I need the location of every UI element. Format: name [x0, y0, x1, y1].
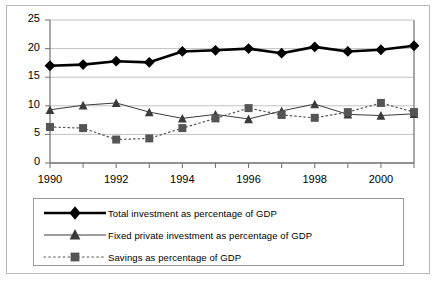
- data-point-marker: [410, 108, 418, 116]
- x-tick-label: 1996: [229, 173, 269, 185]
- x-tickmarks-group: [45, 20, 414, 168]
- data-point-marker: [145, 108, 154, 117]
- legend-key-total-investment: [42, 202, 108, 224]
- data-point-marker: [409, 40, 420, 51]
- legend-label-fixed-private-investment: Fixed private investment as percentage o…: [108, 230, 312, 241]
- x-tick-label: 1990: [30, 173, 70, 185]
- series-lines-group: [50, 46, 414, 140]
- data-point-marker: [144, 57, 155, 68]
- legend-label-savings: Savings as percentage of GDP: [108, 252, 241, 263]
- x-tick-label: 2000: [361, 173, 401, 185]
- data-point-marker: [111, 56, 122, 67]
- legend-key-fixed-private-investment: [42, 224, 108, 246]
- data-point-marker: [78, 59, 89, 70]
- series-markers-group: [45, 40, 420, 143]
- axes-group: [50, 20, 414, 163]
- data-point-marker: [377, 99, 385, 107]
- data-point-marker: [376, 44, 387, 55]
- data-point-marker: [210, 45, 221, 56]
- data-point-marker: [309, 41, 320, 52]
- data-point-marker: [344, 108, 352, 116]
- data-point-marker: [278, 111, 286, 119]
- gridlines-group: [50, 20, 414, 163]
- legend-key-savings: [42, 246, 108, 268]
- data-point-marker: [79, 124, 87, 132]
- x-tick-label: 1998: [295, 173, 335, 185]
- legend-item-total-investment: Total investment as percentage of GDP: [34, 202, 403, 224]
- data-point-marker: [311, 114, 319, 122]
- x-tick-label: 1992: [96, 173, 136, 185]
- y-tick-label: 5: [14, 126, 40, 138]
- x-tick-label: 1994: [162, 173, 202, 185]
- data-point-marker: [245, 104, 253, 112]
- data-point-marker: [177, 46, 188, 57]
- y-tick-label: 25: [14, 12, 40, 24]
- legend-item-fixed-private-investment: Fixed private investment as percentage o…: [34, 224, 403, 246]
- data-point-marker: [243, 43, 254, 54]
- y-tick-label: 10: [14, 98, 40, 110]
- data-point-marker: [342, 46, 353, 57]
- data-point-marker: [45, 60, 56, 71]
- y-tick-label: 0: [14, 155, 40, 167]
- data-point-marker: [310, 100, 319, 109]
- legend-item-savings: Savings as percentage of GDP: [34, 246, 403, 268]
- legend-label-total-investment: Total investment as percentage of GDP: [108, 208, 277, 219]
- data-point-marker: [145, 134, 153, 142]
- chart-legend: Total investment as percentage of GDP Fi…: [33, 198, 404, 266]
- data-point-marker: [112, 136, 120, 144]
- y-tick-label: 15: [14, 69, 40, 81]
- data-point-marker: [211, 114, 219, 122]
- chart-figure: 0510152025 199019921994199619982000 Tota…: [0, 0, 437, 281]
- data-point-marker: [276, 48, 287, 59]
- y-tick-label: 20: [14, 41, 40, 53]
- data-point-marker: [178, 124, 186, 132]
- data-point-marker: [46, 123, 54, 131]
